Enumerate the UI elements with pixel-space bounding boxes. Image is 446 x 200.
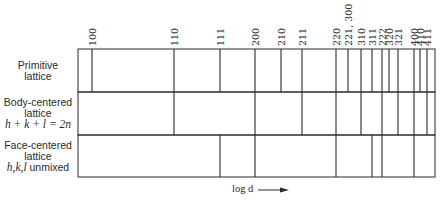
hkl-label: 110 bbox=[169, 28, 180, 46]
hkl-label: 100 bbox=[87, 28, 98, 46]
row-condition-math: h,k,l bbox=[7, 161, 27, 173]
hkl-label: 221, 300 bbox=[343, 4, 354, 46]
hkl-label: 411 bbox=[422, 28, 433, 46]
reflection-diagram: 100110111200210211220221, 30031031122232… bbox=[0, 0, 446, 200]
arrow-right-icon bbox=[258, 186, 290, 194]
row-condition: h + k + l = 2n bbox=[0, 119, 76, 130]
row-label-primitive: Primitive lattice bbox=[0, 60, 76, 82]
hkl-label: 111 bbox=[215, 28, 226, 46]
x-axis-label-text: log d bbox=[232, 183, 253, 194]
hkl-label: 310 bbox=[356, 28, 367, 46]
hkl-label: 220 bbox=[331, 28, 342, 46]
row-label-line: lattice bbox=[0, 71, 76, 82]
x-axis-label: log d bbox=[232, 183, 290, 194]
row-label-face-centered: Face-centered lattice h,k,l unmixed bbox=[0, 140, 76, 173]
hkl-label: 200 bbox=[250, 28, 261, 46]
row-label-body-centered: Body-centered lattice h + k + l = 2n bbox=[0, 97, 76, 130]
hkl-label: 210 bbox=[276, 28, 287, 46]
hkl-label: 211 bbox=[297, 28, 308, 46]
hkl-label: 321 bbox=[393, 28, 404, 46]
row-condition-text: unmixed bbox=[27, 161, 70, 173]
row-condition: h,k,l unmixed bbox=[0, 162, 76, 173]
